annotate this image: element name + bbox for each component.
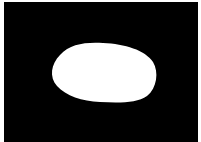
white-blob-shape [0,0,201,142]
